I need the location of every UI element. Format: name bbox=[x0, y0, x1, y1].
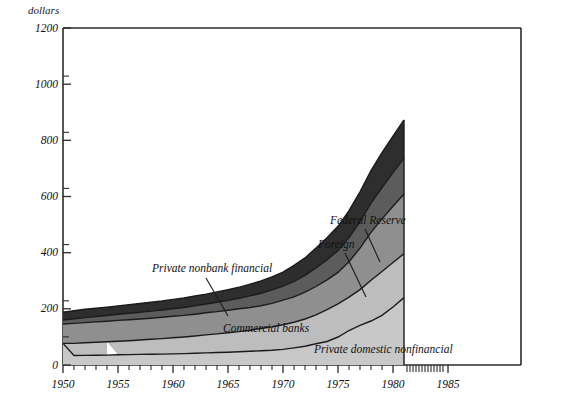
x-tick-label-1950: 1950 bbox=[52, 378, 75, 390]
series-label-commercial-banks: Commercial banks bbox=[223, 322, 310, 334]
page-caption-strip bbox=[0, 395, 574, 407]
y-tick-label-1200: 1200 bbox=[35, 22, 58, 34]
x-tick-label-1960: 1960 bbox=[162, 378, 185, 390]
series-label-foreign: Foreign bbox=[317, 238, 355, 251]
series-label-private-nonbank-financial: Private nonbank financial bbox=[151, 262, 272, 275]
x-tick-label-1975: 1975 bbox=[327, 378, 350, 390]
x-tick-label-1985: 1985 bbox=[437, 378, 460, 390]
stacked-area-chart: 1200 1000 800 600 400 200 0 dollars bbox=[0, 0, 574, 407]
y-tick-label-1000: 1000 bbox=[35, 78, 58, 90]
y-tick-label-800: 800 bbox=[41, 134, 59, 146]
series-label-federal-reserve: Federal Reserve bbox=[329, 214, 406, 226]
x-axis-ticks-dense bbox=[407, 365, 443, 372]
y-axis-unit-label: dollars bbox=[28, 4, 59, 16]
x-axis-tick-labels: 1950 1955 1960 1965 1970 1975 1980 1985 bbox=[52, 378, 460, 390]
y-tick-label-400: 400 bbox=[41, 246, 59, 258]
y-tick-label-200: 200 bbox=[41, 302, 59, 314]
chart-page: 1200 1000 800 600 400 200 0 dollars bbox=[0, 0, 574, 407]
y-tick-label-600: 600 bbox=[41, 190, 59, 202]
y-axis-tick-labels: 1200 1000 800 600 400 200 0 bbox=[35, 22, 58, 371]
x-tick-label-1980: 1980 bbox=[382, 378, 405, 390]
x-tick-label-1955: 1955 bbox=[107, 378, 130, 390]
x-axis-ticks-yearly bbox=[63, 365, 448, 373]
x-tick-label-1965: 1965 bbox=[217, 378, 240, 390]
y-tick-label-0: 0 bbox=[52, 359, 58, 371]
series-label-private-domestic-nonfinancial: Private domestic nonfinancial bbox=[313, 343, 453, 356]
x-tick-label-1970: 1970 bbox=[272, 378, 295, 390]
